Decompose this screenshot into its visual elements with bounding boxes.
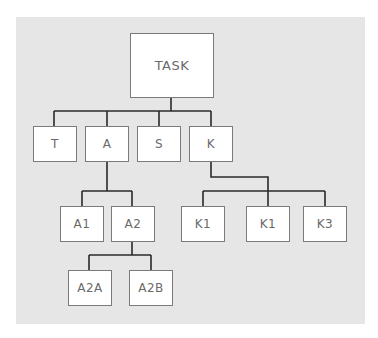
node-a2b: A2B	[129, 270, 173, 306]
node-t: T	[33, 126, 77, 162]
node-k1-second: K1	[246, 206, 290, 242]
node-a1: A1	[60, 206, 104, 242]
node-a2: A2	[111, 206, 155, 242]
node-a: A	[85, 126, 129, 162]
node-task: TASK	[130, 33, 214, 98]
node-k: K	[189, 126, 233, 162]
node-k3: K3	[303, 206, 347, 242]
node-s: S	[137, 126, 181, 162]
node-a2a: A2A	[68, 270, 112, 306]
node-k1-first: K1	[181, 206, 225, 242]
